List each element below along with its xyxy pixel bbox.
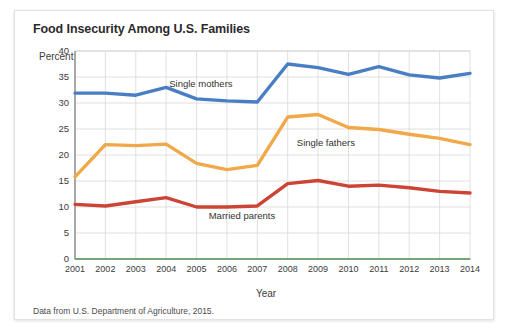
x-axis-tick-label: 2003 bbox=[119, 265, 153, 274]
x-axis-tick-label: 2010 bbox=[331, 265, 365, 274]
x-axis-tick-label: 2002 bbox=[88, 265, 122, 274]
y-axis-tick-label: 20 bbox=[43, 150, 69, 160]
x-axis-tick-label: 2012 bbox=[392, 265, 426, 274]
y-axis-tick-label: 30 bbox=[43, 98, 69, 108]
y-axis-tick-label: 10 bbox=[43, 202, 69, 212]
x-axis-tick-label: 2001 bbox=[58, 265, 92, 274]
series-label-single-fathers: Single fathers bbox=[297, 137, 355, 148]
chart-card: Food Insecurity Among U.S. Families Perc… bbox=[14, 10, 494, 320]
line-chart-svg bbox=[15, 11, 495, 321]
x-axis-tick-label: 2006 bbox=[210, 265, 244, 274]
y-axis-tick-label: 15 bbox=[43, 176, 69, 186]
series-label-single-mothers: Single mothers bbox=[169, 78, 232, 89]
source-note: Data from U.S. Department of Agriculture… bbox=[33, 306, 214, 316]
chart-plot-container: Percent 05101520253035402001200220032004… bbox=[15, 11, 495, 321]
x-axis-tick-label: 2004 bbox=[149, 265, 183, 274]
series-label-married-parents: Married parents bbox=[209, 210, 276, 221]
x-axis-title-text: Year bbox=[234, 288, 276, 299]
y-axis-tick-label: 5 bbox=[43, 228, 69, 238]
x-axis-tick-label: 2009 bbox=[301, 265, 335, 274]
y-axis-tick-label: 35 bbox=[43, 72, 69, 82]
x-axis-tick-label: 2013 bbox=[423, 265, 457, 274]
x-axis-tick-label: 2007 bbox=[240, 265, 274, 274]
x-axis-tick-label: 2011 bbox=[362, 265, 396, 274]
x-axis-tick-label: 2005 bbox=[180, 265, 214, 274]
x-axis-title: Year bbox=[15, 288, 495, 299]
y-axis-tick-label: 40 bbox=[43, 46, 69, 56]
x-axis-tick-label: 2014 bbox=[453, 265, 487, 274]
y-axis-tick-label: 25 bbox=[43, 124, 69, 134]
x-axis-tick-label: 2008 bbox=[271, 265, 305, 274]
y-axis-tick-label: 0 bbox=[43, 254, 69, 264]
